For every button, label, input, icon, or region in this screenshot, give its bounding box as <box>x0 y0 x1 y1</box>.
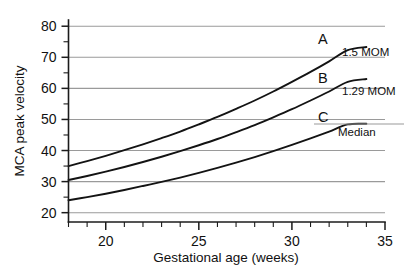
series-key-c: C <box>318 109 328 125</box>
y-tick-label-30: 30 <box>41 174 57 190</box>
series-key-b: B <box>318 70 328 86</box>
y-tick-label-60: 60 <box>41 80 57 96</box>
y-tick-label-80: 80 <box>41 18 57 34</box>
series-label-a: 1.5 MOM <box>342 46 389 58</box>
x-tick-label-25: 25 <box>191 233 207 249</box>
series-label-b: 1.29 MOM <box>342 85 396 97</box>
series-key-a: A <box>318 31 328 47</box>
x-axis-title: Gestational age (weeks) <box>153 250 299 265</box>
series-label-c: Median <box>338 126 376 138</box>
y-tick-label-20: 20 <box>41 205 57 221</box>
chart-background <box>0 0 417 278</box>
y-axis-title: MCA peak velocity <box>12 65 27 176</box>
x-tick-label-20: 20 <box>98 233 114 249</box>
x-tick-label-30: 30 <box>284 233 300 249</box>
x-tick-label-35: 35 <box>377 233 393 249</box>
y-tick-label-50: 50 <box>41 111 57 127</box>
y-tick-label-40: 40 <box>41 143 57 159</box>
y-tick-label-70: 70 <box>41 49 57 65</box>
chart-page: 20304050607080 20253035 A 1.5 MOM B 1.29… <box>0 0 417 278</box>
mca-peak-velocity-chart: 20304050607080 20253035 A 1.5 MOM B 1.29… <box>0 0 417 278</box>
